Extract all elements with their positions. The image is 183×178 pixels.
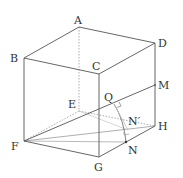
label-N-prime: N′ xyxy=(128,115,141,128)
label-M: M xyxy=(158,79,169,92)
point-M xyxy=(154,84,156,86)
visible-edges xyxy=(24,27,155,157)
edge-EH xyxy=(79,111,155,126)
label-E: E xyxy=(68,98,76,111)
edge-EF xyxy=(24,111,79,141)
cube-diagram: A B C D E F G H M Q N N′ xyxy=(0,0,183,178)
edge-FG xyxy=(24,141,99,157)
vertex-labels: A B C D E F G H M Q N N′ xyxy=(10,14,169,174)
label-F: F xyxy=(11,140,19,153)
right-angle-mark-Q xyxy=(117,102,121,108)
segment-QN-prime xyxy=(114,104,128,130)
label-Q: Q xyxy=(104,91,113,104)
label-H: H xyxy=(158,120,168,133)
construction-lines xyxy=(24,85,155,142)
label-C: C xyxy=(92,60,100,73)
segment-EN-prime xyxy=(79,111,128,130)
segment-FM xyxy=(24,85,155,141)
point-N xyxy=(125,141,127,143)
edge-AD xyxy=(79,27,155,43)
label-N: N xyxy=(128,144,138,157)
segment-FH xyxy=(24,126,155,141)
label-B: B xyxy=(10,52,18,65)
edge-AB xyxy=(24,27,79,58)
edge-CD xyxy=(99,43,155,74)
segment-FN xyxy=(24,141,126,142)
edge-BC xyxy=(24,58,99,74)
label-D: D xyxy=(158,37,167,50)
label-A: A xyxy=(73,14,83,27)
label-G: G xyxy=(94,161,103,174)
